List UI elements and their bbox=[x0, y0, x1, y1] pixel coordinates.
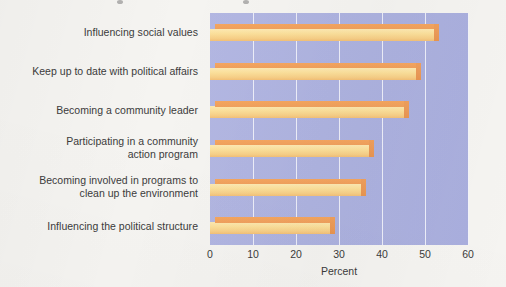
bar bbox=[210, 140, 369, 157]
bar bbox=[210, 217, 330, 234]
bar-side-face bbox=[404, 101, 409, 118]
bar bbox=[210, 179, 361, 196]
x-axis-title: Percent bbox=[210, 265, 468, 277]
x-tick-20: 20 bbox=[290, 248, 302, 260]
category-label: Influencing social values bbox=[0, 26, 198, 39]
category-axis-labels: Influencing the political structureBecom… bbox=[0, 13, 204, 245]
x-tick-40: 40 bbox=[376, 248, 388, 260]
x-tick-0: 0 bbox=[207, 248, 213, 260]
category-label: Participating in a community action prog… bbox=[0, 135, 198, 161]
gridline-60 bbox=[468, 13, 469, 245]
category-label: Influencing the political structure bbox=[0, 219, 198, 232]
bar bbox=[210, 63, 416, 80]
bar-side-face bbox=[416, 63, 421, 80]
category-label: Becoming a community leader bbox=[0, 103, 198, 116]
bar-side-face bbox=[434, 24, 439, 41]
x-axis-tick-labels: 0102030405060 bbox=[210, 248, 468, 264]
bar-side-face bbox=[369, 140, 374, 157]
bar-top-face bbox=[215, 140, 374, 146]
scan-artifact-left bbox=[117, 0, 123, 4]
gridline-10 bbox=[253, 13, 254, 245]
gridline-20 bbox=[296, 13, 297, 245]
bar-top-face bbox=[215, 24, 439, 30]
gridline-50 bbox=[425, 13, 426, 245]
scan-artifact-right bbox=[243, 0, 249, 4]
category-label: Becoming involved in programs to clean u… bbox=[0, 174, 198, 200]
plot-area bbox=[210, 13, 468, 245]
bar-top-face bbox=[215, 179, 366, 185]
bar-front-face bbox=[210, 29, 434, 41]
bar-front-face bbox=[210, 222, 330, 234]
bar-top-face bbox=[215, 63, 421, 69]
bar-side-face bbox=[361, 179, 366, 196]
bar-front-face bbox=[210, 106, 404, 118]
bar-front-face bbox=[210, 68, 416, 80]
bar bbox=[210, 101, 404, 118]
bar-top-face bbox=[215, 101, 409, 107]
x-tick-30: 30 bbox=[333, 248, 345, 260]
bar-side-face bbox=[330, 217, 335, 234]
horizontal-bar-chart: Influencing the political structureBecom… bbox=[0, 0, 506, 287]
bar-top-face bbox=[215, 217, 335, 223]
bar bbox=[210, 24, 434, 41]
category-label: Keep up to date with political affairs bbox=[0, 65, 198, 78]
gridline-30 bbox=[339, 13, 340, 245]
x-tick-50: 50 bbox=[419, 248, 431, 260]
x-tick-60: 60 bbox=[462, 248, 474, 260]
bar-front-face bbox=[210, 145, 369, 157]
x-tick-10: 10 bbox=[247, 248, 259, 260]
bar-front-face bbox=[210, 184, 361, 196]
gridline-40 bbox=[382, 13, 383, 245]
